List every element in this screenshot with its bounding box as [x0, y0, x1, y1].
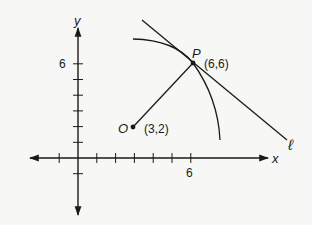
point-o	[131, 125, 136, 130]
point-o-coords: (3,2)	[144, 122, 169, 136]
point-p-label: P	[192, 46, 201, 61]
line-l-label: ℓ	[287, 136, 294, 153]
x-axis-label: x	[271, 151, 279, 166]
y-tick-label-6: 6	[59, 57, 66, 71]
point-p-coords: (6,6)	[204, 57, 229, 71]
segment-op	[133, 63, 193, 127]
y-axis-label: y	[73, 13, 82, 28]
point-o-label: O	[118, 121, 128, 136]
point-p	[191, 61, 196, 66]
coordinate-diagram: x y 6 6 ℓ O (3,2) P (6,6)	[0, 0, 312, 225]
x-tick-label-6: 6	[186, 166, 193, 180]
